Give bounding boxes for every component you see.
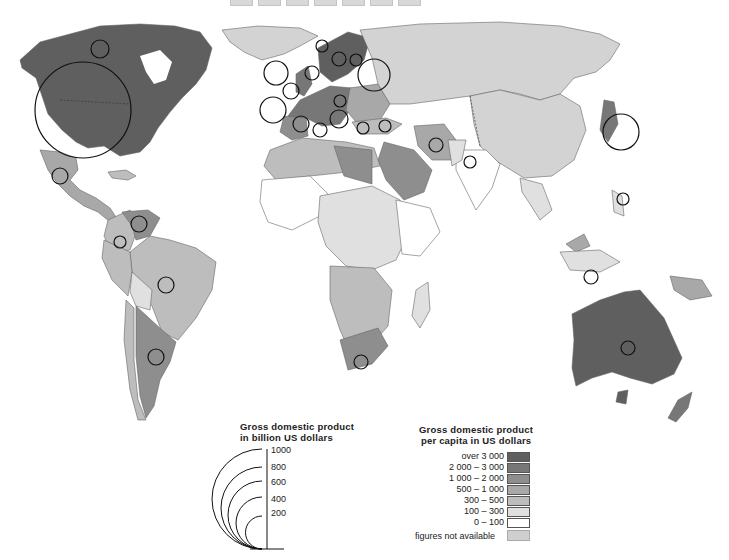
swatch-over-3000 xyxy=(507,452,530,462)
region-indonesia xyxy=(560,250,620,272)
per-capita-legend-title: Gross domestic product per capita in US … xyxy=(419,424,533,446)
region-north-america xyxy=(20,24,212,156)
gdp-scale-600: 600 xyxy=(271,477,286,487)
region-new-zealand xyxy=(668,392,692,422)
region-australia xyxy=(572,290,682,386)
gdp-scale-1000: 1000 xyxy=(271,445,291,455)
swatch-2000-3000 xyxy=(507,463,530,473)
region-malaysia xyxy=(566,234,590,252)
swatch-0-100 xyxy=(507,518,530,528)
class-label-2000-3000: 2 000 – 3 000 xyxy=(449,462,504,472)
gdp-legend-title-line1: Gross domestic product xyxy=(240,421,354,432)
world-map xyxy=(0,0,729,560)
region-mexico xyxy=(40,150,118,222)
region-india xyxy=(456,150,500,210)
swatch-500-1000 xyxy=(507,485,530,495)
gdp-circle-france xyxy=(260,97,286,123)
gdp-scale-800: 800 xyxy=(271,462,286,472)
region-scandinavia xyxy=(318,32,370,82)
swatch-not-available xyxy=(507,530,530,541)
per-capita-legend-title-line1: Gross domestic product xyxy=(419,424,533,435)
gdp-circle-indonesia xyxy=(584,270,598,284)
region-central-africa xyxy=(318,186,410,270)
region-png xyxy=(670,276,712,300)
region-tasmania xyxy=(616,390,628,404)
region-east-africa xyxy=(396,200,440,256)
class-label-over-3000: over 3 000 xyxy=(461,451,504,461)
class-label-300-500: 300 – 500 xyxy=(464,495,504,505)
swatch-100-300 xyxy=(507,507,530,517)
class-label-0-100: 0 – 100 xyxy=(474,517,504,527)
gdp-legend-title-line2: in billion US dollars xyxy=(240,432,354,443)
class-label-1000-2000: 1 000 – 2 000 xyxy=(449,473,504,483)
region-indochina xyxy=(520,178,552,220)
not-available-label: figures not available xyxy=(415,531,495,541)
class-label-500-1000: 500 – 1 000 xyxy=(456,484,504,494)
region-japan xyxy=(600,100,618,142)
region-madagascar xyxy=(412,282,430,328)
gdp-circle-uk xyxy=(264,61,288,85)
per-capita-legend-title-line2: per capita in US dollars xyxy=(419,435,533,446)
gdp-legend-title: Gross domestic product in billion US dol… xyxy=(240,421,354,443)
swatch-1000-2000 xyxy=(507,474,530,484)
gdp-scale-200: 200 xyxy=(271,508,286,518)
class-label-100-300: 100 – 300 xyxy=(464,506,504,516)
region-greenland xyxy=(222,26,318,60)
gdp-scale-400: 400 xyxy=(271,494,286,504)
swatch-300-500 xyxy=(507,496,530,506)
